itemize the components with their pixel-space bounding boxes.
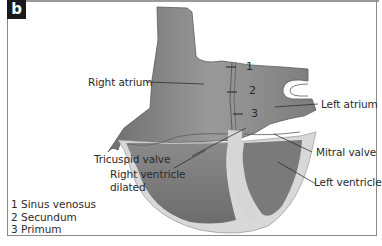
- pulmonary-vein-opening: [290, 84, 308, 96]
- label-left-ventricle: Left ventricle: [314, 176, 382, 188]
- legend-item: 2 Secundum: [11, 211, 96, 224]
- label-mitral-valve: Mitral valve: [316, 146, 376, 158]
- marker-1: 1: [246, 60, 253, 73]
- legend-item: 1 Sinus venosus: [11, 198, 96, 211]
- legend-item: 3 Primum: [11, 223, 96, 236]
- marker-3: 3: [251, 107, 258, 120]
- label-right-ventricle: Right ventricle: [110, 168, 185, 180]
- legend: 1 Sinus venosus 2 Secundum 3 Primum: [11, 198, 96, 236]
- label-right-atrium: Right atrium: [88, 76, 152, 88]
- label-left-atrium: Left atrium: [321, 98, 378, 110]
- label-right-ventricle-dilated: dilated: [110, 181, 145, 193]
- marker-2: 2: [249, 84, 256, 97]
- label-tricuspid-valve: Tricuspid valve: [94, 153, 170, 165]
